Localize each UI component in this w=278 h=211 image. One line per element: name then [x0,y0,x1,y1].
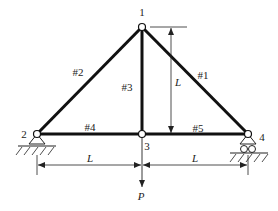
node-label-3: 3 [144,140,150,152]
members [37,27,248,134]
node-label-2: 2 [21,128,27,140]
member-1 [142,27,248,134]
dimension-label-vertical: L [174,76,181,88]
dimension-label-right: L [191,152,198,164]
truss-diagram: 1 2 3 4 #1 #2 #3 #4 #5 L L L P [0,0,278,211]
member-label-3: #3 [122,81,134,93]
vertical-dimension [150,27,187,133]
load-label: P [137,190,145,202]
dimension-label-left: L [86,152,93,164]
node-label-1: 1 [139,6,145,18]
node-4 [245,131,252,138]
member-label-2: #2 [73,66,84,78]
node-3 [139,131,146,138]
horizontal-dimension [37,155,248,175]
member-label-5: #5 [193,122,205,134]
node-2 [34,131,41,138]
member-label-4: #4 [85,121,97,133]
member-label-1: #1 [198,69,209,81]
node-1 [139,24,146,31]
node-label-4: 4 [259,131,265,143]
